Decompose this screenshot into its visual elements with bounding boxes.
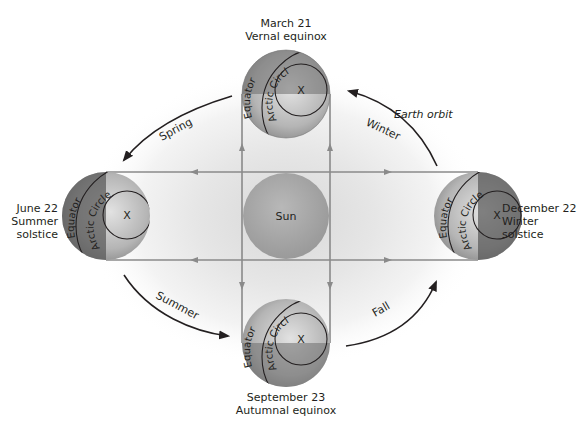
- label-december-date: December 22: [502, 202, 585, 215]
- pole-mark-right: X: [493, 209, 501, 222]
- label-march-event: Vernal equinox: [236, 30, 336, 43]
- diagram-canvas: Equator Arctic Circle Equator Arctic Cir…: [0, 0, 585, 427]
- earth-orbit-label: Earth orbit: [394, 108, 453, 121]
- pole-mark-bottom: X: [297, 333, 305, 346]
- pole-mark-top: X: [297, 84, 305, 97]
- label-december-event-1: Winter: [502, 215, 585, 228]
- pole-mark-left: X: [123, 209, 131, 222]
- label-december-event-2: solstice: [502, 228, 585, 241]
- label-december: December 22 Winter solstice: [502, 202, 585, 241]
- label-june-event-1: Summer: [0, 215, 58, 228]
- label-march: March 21 Vernal equinox: [236, 17, 336, 43]
- label-june-event-2: solstice: [0, 228, 58, 241]
- label-september: September 23 Autumnal equinox: [226, 391, 346, 417]
- sun-label: Sun: [276, 210, 297, 223]
- earth-orbit-diagram: Equator Arctic Circle Equator Arctic Cir…: [0, 0, 585, 427]
- label-march-date: March 21: [236, 17, 336, 30]
- label-june-date: June 22: [0, 202, 58, 215]
- label-september-date: September 23: [226, 391, 346, 404]
- label-september-event: Autumnal equinox: [226, 404, 346, 417]
- label-june: June 22 Summer solstice: [0, 202, 58, 241]
